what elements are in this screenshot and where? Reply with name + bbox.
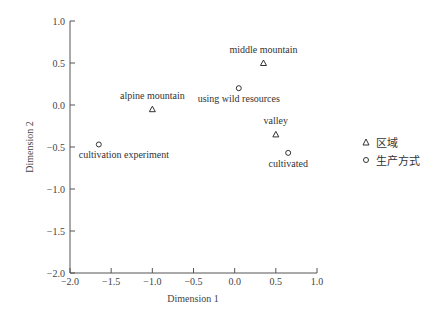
point-label: cultivation experiment [79,149,169,160]
x-tick-label: −1.5 [102,276,120,287]
circle-marker [236,86,241,91]
x-tick-label: 0.5 [270,276,283,287]
x-tick-label: 1.0 [311,276,324,287]
y-tick-label: −1.0 [47,184,65,195]
legend: 区域 生产方式 [362,133,420,169]
y-tick-label: −1.5 [47,226,65,237]
legend-label: 区域 [376,134,398,150]
point-label: alpine mountain [120,90,185,101]
x-tick-label: −0.5 [184,276,202,287]
y-tick-label: −2.0 [47,268,65,279]
circle-marker-icon [362,156,370,164]
triangle-marker [149,106,155,112]
y-tick-label: 0.5 [53,58,66,69]
point-label: cultivated [268,158,307,169]
triangle-marker [260,60,266,66]
point-label: middle mountain [229,44,297,55]
x-axis-title: Dimension 1 [167,293,218,304]
legend-label: 生产方式 [376,152,420,168]
x-tick-label: 0.0 [228,276,241,287]
y-tick-label: 1.0 [53,16,66,27]
y-tick-label: −0.5 [47,142,65,153]
point-label: valley [264,115,288,126]
triangle-marker [273,131,279,137]
point-label: using wild resources [198,93,280,104]
x-tick-label: −1.0 [143,276,161,287]
circle-marker [286,150,291,155]
y-axis-title: Dimension 2 [24,121,35,172]
legend-item-production-mode: 生产方式 [362,151,420,169]
legend-item-region: 区域 [362,133,420,151]
circle-marker [96,142,101,147]
y-tick-label: 0.0 [53,100,66,111]
triangle-marker-icon [362,138,370,146]
data-points: middle mountainalpine mountainvalleyusin… [79,44,308,169]
